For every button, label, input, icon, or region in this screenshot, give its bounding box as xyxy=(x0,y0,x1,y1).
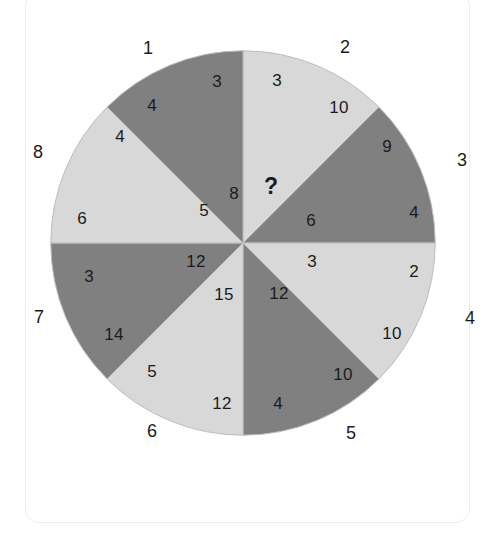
sector-6-number-mid: 5 xyxy=(147,363,157,380)
sector-5-number-outer: 10 xyxy=(333,366,352,383)
sector-7-number-mid: 3 xyxy=(84,268,94,285)
sector-4-number-mid: 10 xyxy=(382,325,401,342)
sector-7-number-outer: 14 xyxy=(104,326,123,343)
sector-3-number-outer: 9 xyxy=(382,138,392,155)
outer-label-4: 4 xyxy=(465,309,475,327)
sector-6-number-outer: 12 xyxy=(212,395,231,412)
sector-2-number-mid: 10 xyxy=(329,99,348,116)
pie-chart-sectors xyxy=(50,50,436,436)
sector-2-number-inner: ? xyxy=(264,175,278,198)
sector-8-number-mid: 4 xyxy=(115,128,125,145)
outer-label-3: 3 xyxy=(457,151,467,169)
sector-4-number-outer: 2 xyxy=(409,263,419,280)
sector-5-number-inner: 12 xyxy=(269,285,288,302)
outer-label-8: 8 xyxy=(33,143,43,161)
outer-label-6: 6 xyxy=(147,422,157,440)
sector-2-number-outer: 3 xyxy=(272,72,282,89)
outer-label-1: 1 xyxy=(143,39,153,57)
sector-1-number-inner: 8 xyxy=(229,185,239,202)
outer-label-2: 2 xyxy=(340,38,350,56)
sector-8-number-inner: 5 xyxy=(199,202,209,219)
sector-5-number-mid: 4 xyxy=(273,395,283,412)
sector-1-number-outer: 3 xyxy=(212,73,222,90)
sector-1-number-mid: 4 xyxy=(147,97,157,114)
sector-3-number-mid: 4 xyxy=(409,204,419,221)
sector-6-number-inner: 15 xyxy=(214,286,233,303)
sector-8-number-outer: 6 xyxy=(77,210,87,227)
sector-7-number-inner: 12 xyxy=(186,253,205,270)
sector-3-number-inner: 6 xyxy=(306,212,316,229)
outer-label-5: 5 xyxy=(346,424,356,442)
outer-label-7: 7 xyxy=(34,308,44,326)
pie-puzzle-wheel: 348310?9462103104121251514312645 1234567… xyxy=(0,0,501,533)
sector-4-number-inner: 3 xyxy=(307,253,317,270)
